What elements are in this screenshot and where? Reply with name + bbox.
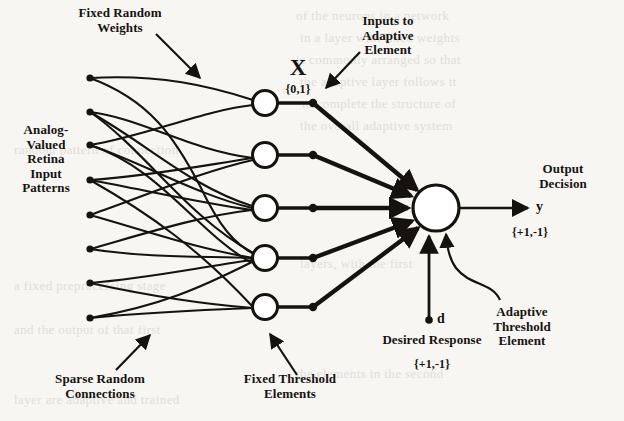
input-dot xyxy=(86,211,93,218)
input-dot xyxy=(86,245,93,252)
fixed-random-weights-label: Fixed Random Weights xyxy=(50,6,190,35)
output-decision-label: Output Decision xyxy=(518,162,608,191)
hidden-node xyxy=(253,295,278,320)
x-vector-junction-dots-group xyxy=(309,99,317,311)
fixed-threshold-elements-group xyxy=(253,91,278,320)
input-dot xyxy=(86,279,93,286)
input-dot xyxy=(86,108,93,115)
connection-edge xyxy=(90,112,252,206)
adaptive-input-arrows-group xyxy=(313,103,418,307)
fixed-random-weights-leader xyxy=(156,34,200,78)
fixed-threshold-elements-label: Fixed Threshold Elements xyxy=(200,372,380,401)
connection-edge xyxy=(90,260,252,283)
connection-edge xyxy=(90,112,253,158)
fixed-threshold-elements-leader xyxy=(270,334,297,375)
y-output-label: y xyxy=(536,199,562,215)
x-range-label: {0,1} xyxy=(272,83,324,96)
input-dots-group xyxy=(86,74,93,321)
sparse-random-connections-label: Sparse Random Connections xyxy=(20,372,180,401)
adaptive-threshold-callout-leader xyxy=(446,234,500,300)
input-dot xyxy=(86,314,93,321)
analog-valued-retina-input-patterns-label: Analog- Valued Retina Input Patterns xyxy=(2,123,90,196)
connection-edge xyxy=(90,158,253,180)
hidden-node xyxy=(253,246,278,271)
y-range-label: {+1,-1} xyxy=(494,226,566,239)
connection-edge xyxy=(90,283,253,308)
d-range-label: {+1,-1} xyxy=(396,358,468,371)
x-vector-label: X xyxy=(278,55,318,81)
neural-network-figure: of the neurons in a network in a layer w… xyxy=(0,0,624,421)
d-input-label: d xyxy=(437,311,457,327)
sparse-random-connections-leader xyxy=(116,335,150,370)
desired-response-dot xyxy=(425,316,433,324)
adaptive-threshold-element-label: Adaptive Threshold Element xyxy=(466,305,578,349)
adaptive-element-node xyxy=(413,185,459,231)
connection-edge xyxy=(90,210,252,249)
hidden-node xyxy=(253,143,278,168)
input-dot xyxy=(86,74,93,81)
adaptive-input-arrow xyxy=(313,221,412,258)
sparse-random-connections-group xyxy=(90,77,254,318)
hidden-node xyxy=(253,196,278,221)
inputs-to-adaptive-element-label: Inputs to Adaptive Element xyxy=(330,14,446,58)
hidden-output-stubs-group xyxy=(278,103,313,307)
